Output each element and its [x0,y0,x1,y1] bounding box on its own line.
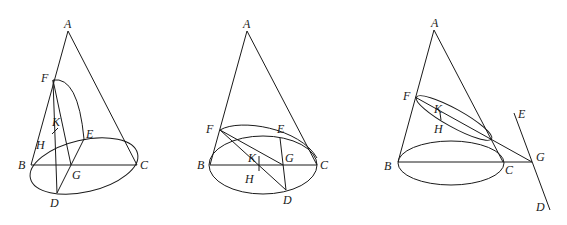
base-ellipse [398,141,504,185]
edge-AC [247,31,317,165]
edge-AB [210,31,247,165]
line-FG [415,97,532,162]
label-B: B [197,158,205,172]
label-A: A [242,17,251,31]
label-A: A [430,16,439,30]
label-K: K [433,102,443,116]
label-H: H [244,172,255,186]
figure-2: A F E K G B C H D [197,17,329,207]
label-B: B [18,158,26,172]
label-C: C [320,158,329,172]
section-ellipse [412,89,496,146]
label-D: D [535,200,545,214]
section-curve-FE [53,80,84,139]
label-E: E [517,107,526,121]
chord-ED [57,139,84,193]
label-A: A [63,17,72,31]
label-C: C [140,158,149,172]
label-G: G [285,151,294,165]
figure-3: A F K H E G B C D [384,16,550,214]
label-H: H [35,138,46,152]
label-F: F [205,122,214,136]
label-E: E [85,127,94,141]
label-D: D [49,196,59,210]
label-K: K [51,115,61,129]
label-G: G [72,168,81,182]
label-B: B [384,159,392,173]
label-D: D [282,193,292,207]
cone-sections-diagram: A F K E H B C G D A F E K G B C H D [0,0,567,225]
label-H: H [433,122,444,136]
label-C: C [505,163,514,177]
label-F: F [40,71,49,85]
label-F: F [402,89,411,103]
section-curve-FE [220,125,317,158]
label-G: G [536,150,545,164]
figure-1: A F K E H B C G D [18,17,149,210]
edge-AC [68,31,137,165]
label-E: E [276,122,285,136]
label-K: K [247,151,257,165]
